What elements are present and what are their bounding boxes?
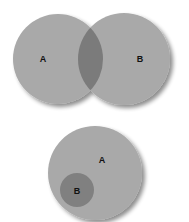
superset-a-circle (48, 126, 142, 220)
superset-a-label: A (99, 155, 106, 165)
set-b-label: B (137, 54, 144, 64)
venn-diagrams-canvas: A B A B (0, 0, 189, 222)
subset-b-label: B (74, 186, 81, 196)
venn-overlap-diagram: A B (13, 13, 170, 105)
venn-subset-diagram: A B (48, 126, 142, 220)
set-a-label: A (40, 54, 47, 64)
